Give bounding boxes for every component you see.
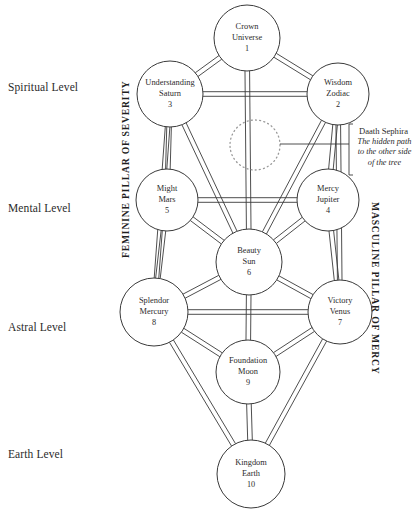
sephira-yesod[interactable]: FoundationMoon9 [216,340,280,404]
sephira-geburah[interactable]: MightMars5 [136,169,198,231]
daath-annotation-bracket [280,124,353,175]
daath-annotation-title: Daath Sephira [352,126,415,137]
sephira-attribute-hod: Mercury [140,307,170,316]
sephira-number-geburah: 5 [165,206,169,215]
level-label-mental: Mental Level [8,202,71,214]
sephira-attribute-netzach: Venus [330,307,350,316]
path-hod-netzach [188,310,308,315]
sephira-number-tiphereth: 6 [247,268,251,277]
sephira-number-kether: 1 [245,44,249,53]
path-chesed-tiphereth [273,217,305,243]
sephira-attribute-geburah: Mars [158,195,175,204]
sephira-name-kether: Crown [236,22,260,31]
daath-hidden-node-layer [230,120,280,170]
sephira-number-chokmah: 2 [336,100,340,109]
sephira-name-malkuth: Kingdom [235,458,267,467]
daath-hidden-sephira-circle [230,120,280,170]
path-netzach-yesod [273,328,314,357]
sephira-name-tiphereth: Beauty [237,246,262,255]
daath-annotation-line-2: to the other side [354,147,415,158]
pillar-label-masculine-mercy: MASCULINE PILLAR OF MERCY [370,202,381,375]
sephira-number-hod: 8 [152,318,156,327]
sephira-name-netzach: Victory [327,296,353,305]
sephira-name-yesod: Foundation [229,356,268,365]
sephira-chokmah[interactable]: WisdomZodiac2 [307,63,369,125]
sephira-attribute-chokmah: Zodiac [326,89,350,98]
path-tiphereth-hod [183,275,221,298]
sephira-attribute-tiphereth: Sun [242,257,256,266]
pillar-label-feminine-severity: FEMININE PILLAR OF SEVERITY [120,81,131,258]
level-label-earth: Earth Level [8,448,63,460]
sephira-number-chesed: 4 [326,206,330,215]
path-yesod-malkuth [247,404,253,440]
sephira-chesed[interactable]: MercyJupiter4 [297,169,359,231]
sephira-attribute-yesod: Moon [238,367,259,376]
sephira-name-geburah: Might [157,184,178,193]
sephira-name-chokmah: Wisdom [324,78,353,87]
tree-of-life-diagram: CrownUniverse1UnderstandingSaturn3Wisdom… [0,0,415,509]
sephira-name-binah: Understanding [145,78,195,87]
level-label-spiritual: Spiritual Level [8,81,78,93]
daath-annotation-line-3: of the tree [354,158,415,169]
sephira-number-binah: 3 [168,100,172,109]
path-kether-binah [195,56,221,77]
path-tiphereth-netzach [277,276,313,299]
path-geburah-chesed [198,198,297,203]
path-geburah-tiphereth [190,217,224,244]
level-label-astral: Astral Level [8,321,66,333]
sephira-number-malkuth: 10 [247,480,255,489]
path-kether-tiphereth [245,71,251,229]
sephira-tiphereth[interactable]: BeautySun6 [216,229,282,295]
sephira-name-chesed: Mercy [317,184,340,193]
tree-diagram-canvas: CrownUniverse1UnderstandingSaturn3Wisdom… [0,0,415,509]
path-kether-chokmah [274,53,313,79]
sephira-malkuth[interactable]: KingdomEarth10 [217,440,285,508]
path-tiphereth-yesod [246,295,251,340]
sephira-number-netzach: 7 [338,318,342,327]
sephira-name-hod: Splendor [139,296,169,305]
path-binah-chokmah [203,92,307,97]
sephira-netzach[interactable]: VictoryVenus7 [308,280,372,344]
sephira-kether[interactable]: CrownUniverse1 [214,5,280,71]
sephira-binah[interactable]: UnderstandingSaturn3 [137,61,203,127]
sephira-attribute-binah: Saturn [159,89,182,98]
sephira-attribute-kether: Universe [232,33,263,42]
sephira-attribute-malkuth: Earth [242,469,261,478]
sephira-attribute-chesed: Jupiter [317,195,340,204]
daath-annotation-line-1: The hidden path [354,137,415,148]
path-hod-yesod [181,328,222,356]
sephira-hod[interactable]: SplendorMercury8 [120,278,188,346]
daath-annotation: Daath Sephira The hidden path to the oth… [354,126,415,168]
sephira-number-yesod: 9 [246,378,250,387]
